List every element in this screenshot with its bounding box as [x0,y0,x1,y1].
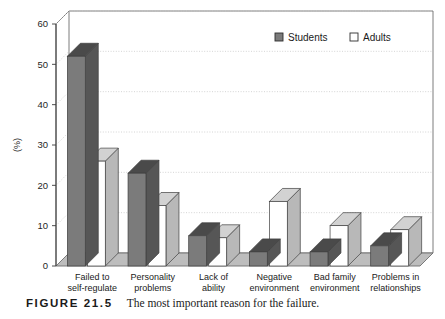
y-axis-tick-label: 0 [43,260,48,271]
legend-label-students: Students [288,32,327,43]
category-label-5: Bad family [314,272,357,282]
category-label-4: Negative [256,272,292,282]
category-label-3: Lack of [199,272,229,282]
category-label-1: Failed to [75,272,110,282]
bar-front-face [67,56,85,266]
y-axis-tick-label: 60 [37,18,48,29]
category-label-1: self-regulate [67,283,117,293]
bar-chart: 0102030405060(%)Failed toself-regulatePe… [0,0,445,300]
caption-description: The most important reason for the failur… [127,297,320,309]
category-label-6: relationships [370,283,421,293]
y-axis-title: (%) [12,138,22,152]
y-axis-tick-label: 40 [37,99,48,110]
category-label-6: Problems in [372,272,420,282]
bar-side-face [146,160,159,266]
category-label-3: ability [202,283,226,293]
legend-swatch-students [275,33,283,41]
y-axis-tick-label: 20 [37,180,48,191]
bar-students-1 [67,43,98,266]
bar-front-face [249,252,267,266]
bar-front-face [371,246,389,266]
bar-front-face [128,173,146,266]
category-label-2: Personality [131,272,176,282]
figure-container: 0102030405060(%)Failed toself-regulatePe… [0,0,445,319]
bar-side-face [105,148,118,266]
caption-figure-number: FIGURE 21.5 [26,297,113,309]
category-label-2: problems [134,283,172,293]
y-axis-tick-label: 30 [37,139,48,150]
bar-front-face [310,252,328,266]
bar-side-face [287,188,300,266]
legend-label-adults: Adults [363,32,391,43]
bar-students-2 [128,160,159,266]
legend-swatch-adults [350,33,358,41]
category-label-5: environment [310,283,360,293]
bar-side-face [85,43,98,266]
y-axis-tick-label: 50 [37,59,48,70]
y-axis-tick-label: 10 [37,220,48,231]
category-label-4: environment [249,283,299,293]
bar-front-face [189,236,207,266]
figure-caption: FIGURE 21.5 The most important reason fo… [0,297,445,319]
